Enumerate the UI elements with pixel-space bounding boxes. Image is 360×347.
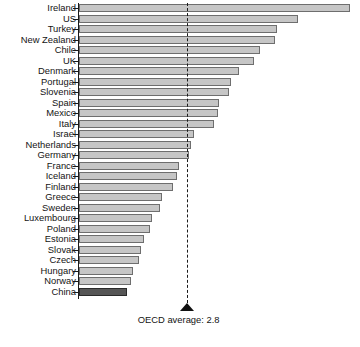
axis-tick [73, 260, 78, 261]
bar-container [79, 288, 127, 296]
bar-row: Chile [0, 45, 360, 56]
category-label: Portugal [0, 77, 76, 87]
bar-container [79, 67, 239, 75]
bar [79, 277, 131, 285]
axis-tick [73, 187, 78, 188]
bar-container [79, 225, 150, 233]
bar-container [79, 141, 191, 149]
axis-tick [73, 61, 78, 62]
bar [79, 130, 194, 138]
category-label: Slovak [0, 245, 76, 255]
axis-tick [73, 40, 78, 41]
axis-tick [73, 292, 78, 293]
axis-tick [73, 218, 78, 219]
bar [79, 99, 219, 107]
bar [79, 36, 275, 44]
axis-tick [73, 197, 78, 198]
axis-tick [73, 239, 78, 240]
bar [79, 256, 139, 264]
bar [79, 162, 179, 170]
bar-row: New Zealand [0, 35, 360, 46]
bar-container [79, 120, 214, 128]
bar-container [79, 256, 139, 264]
bar-row: Mexico [0, 108, 360, 119]
bar-container [79, 151, 189, 159]
axis-tick [73, 166, 78, 167]
bar [79, 225, 150, 233]
bar [79, 204, 160, 212]
category-label: Turkey [0, 24, 76, 34]
bar-container [79, 109, 218, 117]
bar-container [79, 46, 260, 54]
bar [79, 288, 127, 296]
bar [79, 109, 218, 117]
bar [79, 15, 298, 23]
bar-container [79, 25, 277, 33]
category-label: Israel [0, 129, 76, 139]
bar [79, 267, 133, 275]
bar [79, 183, 173, 191]
bar [79, 46, 260, 54]
bar-row: Norway [0, 276, 360, 287]
bar-container [79, 88, 229, 96]
category-label: Finland [0, 182, 76, 192]
oecd-average-line [187, 3, 188, 303]
bar-container [79, 235, 144, 243]
bar [79, 151, 189, 159]
bar [79, 88, 229, 96]
bar-container [79, 277, 131, 285]
axis-tick [73, 229, 78, 230]
bar [79, 235, 144, 243]
category-label: Denmark [0, 66, 76, 76]
axis-tick [73, 145, 78, 146]
category-label: US [0, 14, 76, 24]
bar [79, 25, 277, 33]
category-label: Mexico [0, 108, 76, 118]
category-label: Italy [0, 119, 76, 129]
bar-row: Iceland [0, 171, 360, 182]
axis-tick [73, 8, 78, 9]
bar-container [79, 183, 173, 191]
bar-row: Israel [0, 129, 360, 140]
bar-container [79, 246, 141, 254]
bar-container [79, 172, 177, 180]
bar-container [79, 99, 219, 107]
bar-row: Ireland [0, 3, 360, 14]
plot-area: IrelandUSTurkeyNew ZealandChileUKDenmark… [0, 0, 360, 347]
category-label: Sweden [0, 203, 76, 213]
bar-container [79, 130, 194, 138]
bar-container [79, 36, 275, 44]
bar-container [79, 15, 298, 23]
bar-row: Germany [0, 150, 360, 161]
axis-tick [73, 124, 78, 125]
category-label: Estonia [0, 234, 76, 244]
bar-container [79, 57, 254, 65]
oecd-average-label: OECD average: 2.8 [138, 314, 220, 325]
bar-row: Czech [0, 255, 360, 266]
category-label: Czech [0, 255, 76, 265]
bar [79, 120, 214, 128]
axis-tick [73, 19, 78, 20]
category-label: Germany [0, 150, 76, 160]
category-label: Slovenia [0, 87, 76, 97]
footer-text-fragment [4, 336, 204, 345]
bar [79, 141, 191, 149]
bar-row: Turkey [0, 24, 360, 35]
bar [79, 4, 350, 12]
bar-row: Slovenia [0, 87, 360, 98]
bar [79, 193, 162, 201]
bar [79, 172, 177, 180]
axis-tick [73, 271, 78, 272]
bar-container [79, 204, 160, 212]
axis-tick [73, 103, 78, 104]
category-label: Chile [0, 45, 76, 55]
category-label: Iceland [0, 171, 76, 181]
bar [79, 78, 231, 86]
axis-tick [73, 250, 78, 251]
bar-rows: IrelandUSTurkeyNew ZealandChileUKDenmark… [0, 3, 360, 297]
category-label: Greece [0, 192, 76, 202]
category-label: France [0, 161, 76, 171]
category-label: Luxembourg [0, 213, 76, 223]
bar-chart: IrelandUSTurkeyNew ZealandChileUKDenmark… [0, 0, 360, 347]
category-label: Spain [0, 98, 76, 108]
